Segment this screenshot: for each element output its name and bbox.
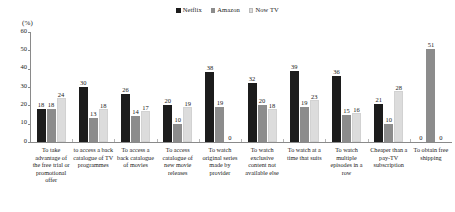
bar-slot: 19 (300, 32, 309, 142)
x-axis-label: To watch original series made by provide… (199, 146, 241, 184)
bar-slot: 24 (57, 32, 66, 142)
legend-item-netflix[interactable]: Netflix (176, 7, 202, 14)
bar-group: 391923 (283, 32, 325, 142)
y-tick-label: 0 (24, 138, 27, 145)
bar-netflix[interactable]: 32 (248, 83, 257, 142)
bar-amazon[interactable]: 19 (300, 107, 309, 142)
bar-slot: 38 (205, 32, 214, 142)
bar-slot: 19 (183, 32, 192, 142)
bar-slot: 26 (121, 32, 130, 142)
bar-now-tv[interactable]: 24 (57, 98, 66, 142)
x-axis-label: To watch at a time that suits (283, 146, 325, 184)
bar-amazon[interactable]: 10 (173, 124, 182, 142)
x-axis-label: To access a back catalogue of movies (114, 146, 156, 184)
bar-value-label: 23 (311, 94, 318, 101)
bar-now-tv[interactable]: 18 (99, 109, 108, 142)
bar-slot: 36 (332, 32, 341, 142)
legend-label: Amazon (217, 7, 240, 14)
bar-value-label: 17 (142, 105, 149, 112)
legend-item-amazon[interactable]: Amazon (211, 7, 240, 14)
bar-slot: 0 (436, 32, 445, 142)
bar-netflix[interactable]: 20 (163, 105, 172, 142)
bar-now-tv[interactable]: 19 (183, 107, 192, 142)
bar-amazon[interactable]: 15 (342, 115, 351, 143)
legend-swatch-icon (211, 8, 216, 13)
bar-netflix[interactable]: 18 (37, 109, 46, 142)
bar-value-label: 20 (259, 98, 266, 105)
y-tick-label: 40 (21, 64, 28, 71)
bar-group: 322018 (241, 32, 283, 142)
bar-group: 181824 (30, 32, 72, 142)
bar-slot: 18 (268, 32, 277, 142)
bar-netflix[interactable]: 36 (332, 76, 341, 142)
bar-slot: 21 (374, 32, 383, 142)
bar-slot: 18 (99, 32, 108, 142)
legend-item-now-tv[interactable]: Now TV (249, 7, 279, 14)
x-axis-label: To watch multiple episodes in a row (325, 146, 367, 184)
bar-value-label: 0 (419, 135, 422, 142)
bar-netflix[interactable]: 38 (205, 72, 214, 142)
bar-value-label: 19 (184, 101, 191, 108)
y-tick-mark (28, 142, 32, 143)
y-tick-label: 20 (21, 101, 28, 108)
bar-value-label: 30 (80, 80, 87, 87)
y-tick-label: 50 (21, 46, 28, 53)
bar-slot: 39 (290, 32, 299, 142)
bar-slot: 20 (258, 32, 267, 142)
bar-group: 38190 (199, 32, 241, 142)
x-axis-label: Cheaper than a pay-TV subscription (368, 146, 410, 184)
bar-value-label: 28 (395, 85, 402, 92)
bar-value-label: 39 (291, 64, 298, 71)
bar-value-label: 10 (385, 117, 392, 124)
legend-swatch-icon (176, 8, 181, 13)
bar-slot: 23 (310, 32, 319, 142)
bar-netflix[interactable]: 21 (374, 104, 383, 143)
legend-swatch-icon (249, 8, 254, 13)
x-axis-label: To obtain free shipping (410, 146, 452, 184)
bar-groups: 1818243013182614172010193819032201839192… (30, 32, 452, 142)
bar-value-label: 14 (132, 109, 139, 116)
bar-value-label: 0 (439, 135, 442, 142)
bar-value-label: 19 (217, 100, 224, 107)
bar-amazon[interactable]: 19 (215, 107, 224, 142)
bar-slot: 16 (352, 32, 361, 142)
bar-value-label: 36 (333, 69, 340, 76)
bar-amazon[interactable]: 14 (131, 116, 140, 142)
bar-slot: 28 (394, 32, 403, 142)
bar-slot: 51 (426, 32, 435, 142)
bar-slot: 32 (248, 32, 257, 142)
bar-group: 0510 (410, 32, 452, 142)
bar-value-label: 26 (122, 87, 129, 94)
bar-netflix[interactable]: 30 (79, 87, 88, 142)
chart-legend: NetflixAmazonNow TV (0, 7, 455, 14)
y-tick-label: 10 (21, 119, 28, 126)
bar-now-tv[interactable]: 23 (310, 100, 319, 142)
bar-value-label: 19 (301, 100, 308, 107)
legend-label: Netflix (183, 7, 202, 14)
bar-group: 301318 (72, 32, 114, 142)
bar-value-label: 24 (58, 92, 65, 99)
bar-slot: 0 (225, 32, 234, 142)
bar-slot: 10 (173, 32, 182, 142)
bar-now-tv[interactable]: 17 (141, 111, 150, 142)
bar-amazon[interactable]: 10 (384, 124, 393, 142)
bar-value-label: 10 (174, 117, 181, 124)
bar-amazon[interactable]: 18 (47, 109, 56, 142)
bar-group: 261417 (114, 32, 156, 142)
bar-netflix[interactable]: 39 (290, 71, 299, 143)
bar-now-tv[interactable]: 16 (352, 113, 361, 142)
bar-now-tv[interactable]: 18 (268, 109, 277, 142)
bar-value-label: 13 (90, 111, 97, 118)
y-tick-label: 30 (21, 83, 28, 90)
bar-chart: NetflixAmazonNow TV (%) 0102030405060 18… (0, 0, 455, 212)
bar-slot: 17 (141, 32, 150, 142)
x-axis-label: To access catalogue of new movie release… (157, 146, 199, 184)
x-axis-label: To take advantage of the free trial or p… (30, 146, 72, 184)
bar-netflix[interactable]: 26 (121, 94, 130, 142)
bar-amazon[interactable]: 51 (426, 49, 435, 143)
bar-amazon[interactable]: 20 (258, 105, 267, 142)
bar-now-tv[interactable]: 28 (394, 91, 403, 142)
bar-slot: 15 (342, 32, 351, 142)
bar-amazon[interactable]: 13 (89, 118, 98, 142)
bar-value-label: 15 (343, 108, 350, 115)
